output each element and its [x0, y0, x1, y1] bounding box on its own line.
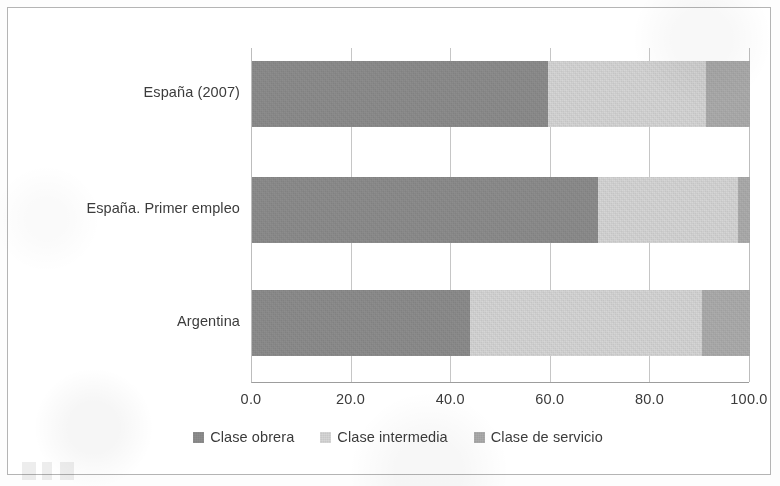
bar-segment [706, 61, 750, 127]
bar-segment [598, 177, 738, 243]
legend-swatch-icon [193, 432, 204, 443]
category-label-3: Argentina [177, 313, 240, 329]
legend-label: Clase intermedia [337, 429, 447, 445]
bar-segment [252, 61, 548, 127]
chart-legend: Clase obreraClase intermediaClase de ser… [8, 429, 770, 445]
chart-figure-frame: España (2007)España. Primer empleoArgent… [7, 7, 771, 475]
bar-row [252, 290, 750, 356]
bar-segment [470, 290, 702, 356]
legend-swatch-icon [320, 432, 331, 443]
legend-label: Clase obrera [210, 429, 294, 445]
legend-swatch-icon [474, 432, 485, 443]
legend-label: Clase de servicio [491, 429, 603, 445]
bar-segment [548, 61, 706, 127]
bar-segment [702, 290, 750, 356]
legend-item-2: Clase intermedia [320, 429, 447, 445]
x-tick-label-20.0: 20.0 [336, 391, 365, 407]
x-tick-label-100.0: 100.0 [730, 391, 767, 407]
x-tick-label-40.0: 40.0 [436, 391, 465, 407]
bar-segment [252, 290, 470, 356]
x-tick-label-80.0: 80.0 [635, 391, 664, 407]
plot-area [251, 48, 749, 383]
scanned-page-background: España (2007)España. Primer empleoArgent… [0, 0, 780, 486]
bar-row [252, 177, 750, 243]
legend-item-1: Clase obrera [193, 429, 294, 445]
bars-container [252, 48, 749, 382]
legend-item-3: Clase de servicio [474, 429, 603, 445]
bar-row [252, 61, 750, 127]
x-tick-label-60.0: 60.0 [535, 391, 564, 407]
bar-segment [738, 177, 750, 243]
x-tick-label-0.0: 0.0 [241, 391, 262, 407]
category-label-1: España (2007) [144, 84, 240, 100]
bar-segment [252, 177, 598, 243]
category-label-2: España. Primer empleo [86, 200, 240, 216]
